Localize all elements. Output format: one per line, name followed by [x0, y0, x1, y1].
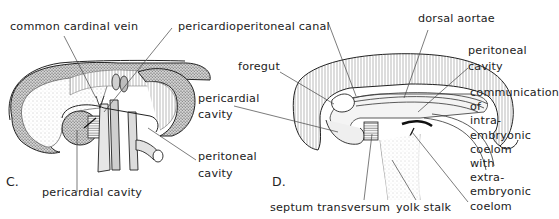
label-pericardial-cavity-c: pericardial cavity	[42, 186, 142, 200]
label-peritoneal-cavity-d: peritoneal cavity	[468, 44, 527, 74]
label-pericardioperitoneal-canal: pericardioperitoneal canal	[178, 20, 330, 34]
label-yolk-stalk: yolk stalk	[396, 201, 451, 215]
panel-c-drawing	[9, 60, 210, 172]
label-peritoneal-cavity-c: peritoneal cavity	[198, 150, 257, 181]
panel-letter-d: D.	[272, 174, 286, 189]
panel-letter-c: C.	[6, 174, 19, 189]
label-foregut: foregut	[238, 60, 280, 74]
label-pericardial-cavity-d: pericardial cavity	[198, 92, 259, 122]
label-communication-coelom: communication of intra- embryonic coelom…	[470, 86, 559, 214]
label-septum-transversum: septum transversum	[270, 201, 390, 215]
label-dorsal-aortae: dorsal aortae	[418, 12, 495, 26]
label-common-cardinal-vein: common cardinal vein	[10, 20, 138, 34]
